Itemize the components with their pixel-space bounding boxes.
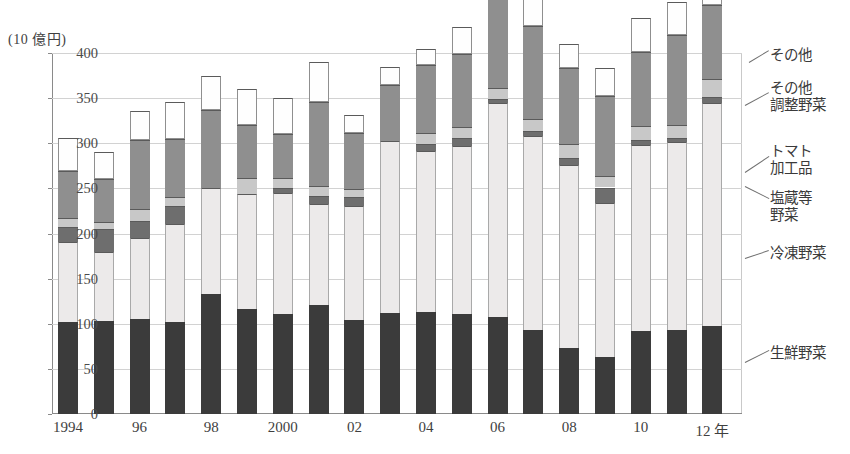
bar-segment-frozen [595,203,615,357]
bar-2010[interactable] [631,18,651,414]
bar-segment-tomato [165,197,185,206]
bar-segment-salted [667,138,687,143]
bar-segment-salted [309,196,329,204]
bar-segment-frozen [667,142,687,330]
bar-segment-salted [702,97,722,102]
bar-segment-frozen [237,194,257,310]
bar-1999[interactable] [237,89,257,414]
bar-2002[interactable] [344,115,364,414]
bar-segment-salted [273,188,293,193]
x-axis-tick-label: 12 年 [696,419,730,440]
bar-segment-tomato [309,186,329,196]
bar-segment-frozen [344,206,364,320]
bar-2004[interactable] [416,49,436,415]
legend-label-fresh: 生鮮野菜 [770,345,826,362]
bar-segment-tomato [488,88,508,99]
bar-segment-other [273,98,293,134]
bar-segment-tomato [667,125,687,138]
bar-2001[interactable] [309,62,329,414]
bar-segment-salted [595,188,615,203]
bar-segment-frozen [452,146,472,314]
bar-segment-other [58,138,78,171]
y-axis-tick-label: 350 [76,90,98,107]
bar-1997[interactable] [165,102,185,414]
bar-2003[interactable] [380,67,400,414]
x-axis-tick-label: 96 [132,419,147,436]
bar-2005[interactable] [452,27,472,414]
bar-segment-prep [201,110,221,189]
bar-segment-frozen [380,141,400,313]
bar-segment-other [416,49,436,65]
y-axis-tick-label: 150 [76,270,98,287]
legend-label-tomato: トマト 加工品 [770,143,812,177]
bar-2006[interactable] [488,0,508,414]
legend-leader-line-prep [745,92,769,106]
y-axis-tick [48,279,52,280]
bar-segment-salted [165,206,185,224]
bar-segment-prep [702,5,722,79]
bar-2011[interactable] [667,2,687,414]
bar-segment-prep [273,134,293,177]
bar-1998[interactable] [201,76,221,414]
bar-segment-tomato [130,209,150,221]
bar-segment-other [130,111,150,140]
bar-1996[interactable] [130,111,150,414]
bar-segment-prep [631,52,651,126]
bar-segment-frozen [273,193,293,314]
bar-2000[interactable] [273,98,293,414]
bar-segment-frozen [201,188,221,294]
bar-segment-frozen [165,224,185,322]
x-axis-tick-label: 98 [204,419,219,436]
bar-segment-other [309,62,329,102]
bar-segment-other [380,67,400,85]
bar-segment-salted [631,140,651,145]
bar-segment-fresh [165,322,185,414]
legend-label-prep: その他 調整野菜 [770,80,826,114]
bar-segment-fresh [416,312,436,414]
bar-2007[interactable] [523,0,543,414]
y-axis-tick [48,234,52,235]
y-axis-tick [48,143,52,144]
bar-segment-fresh [595,357,615,414]
bar-segment-prep [309,102,329,186]
bar-segment-fresh [702,326,722,414]
bar-segment-tomato [416,133,436,144]
bar-segment-tomato [523,119,543,131]
bar-segment-fresh [309,305,329,414]
bar-segment-other [667,2,687,35]
bar-segment-other [559,44,579,68]
bar-segment-frozen [631,145,651,331]
bar-segment-fresh [344,320,364,414]
bar-segment-frozen [488,103,508,318]
bar-segment-salted [559,158,579,165]
y-axis-tick [48,98,52,99]
x-axis-tick-label: 02 [347,419,362,436]
bar-segment-frozen [309,204,329,305]
y-axis-tick [48,188,52,189]
bar-segment-prep [452,54,472,127]
bar-segment-tomato [273,178,293,189]
bar-2008[interactable] [559,44,579,414]
y-axis-unit-label: (10 億円) [8,28,66,48]
bar-segment-other [523,0,543,26]
legend-leader-line-tomato [745,156,770,173]
bar-segment-frozen [702,103,722,327]
bar-segment-prep [416,65,436,134]
bar-2012[interactable] [702,0,722,414]
bar-segment-salted [488,99,508,103]
bar-segment-prep [667,35,687,125]
legend-label-frozen: 冷凍野菜 [770,245,826,262]
bar-segment-tomato [452,127,472,138]
bar-segment-prep [237,125,257,178]
legend-leader-line-salted [745,186,769,199]
bar-1994[interactable] [58,138,78,414]
bar-segment-salted [130,221,150,238]
bar-segment-prep [130,140,150,209]
bar-segment-tomato [595,176,615,188]
legend-leader-line-fresh [745,350,769,363]
bar-segment-prep [165,139,185,197]
bar-segment-other [631,18,651,52]
x-axis-tick-label: 08 [562,419,577,436]
bar-2009[interactable] [595,68,615,414]
legend-leader-line-frozen [745,250,769,259]
